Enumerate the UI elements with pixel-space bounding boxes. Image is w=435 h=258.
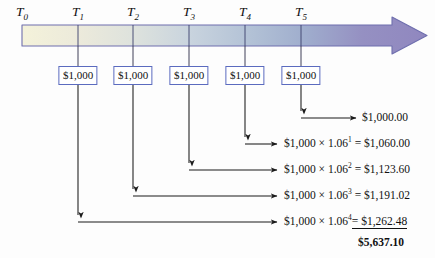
equals-sign-2: = [355, 163, 362, 175]
times-sign-2: × [319, 163, 326, 175]
result-principal-1: $1,000 [284, 137, 316, 149]
result-rate-4: 1.06 [328, 215, 348, 227]
result-principal-2: $1,000 [284, 163, 316, 175]
equals-sign-4: = [352, 215, 359, 227]
times-sign-1: × [319, 137, 326, 149]
result-value-4: $1,262.48 [361, 215, 407, 227]
time-label-t3: T3 [183, 4, 195, 22]
cashflow-box-t4: $1,000 [225, 66, 264, 85]
times-sign-4: × [319, 215, 326, 227]
result-rate-2: 1.06 [328, 163, 348, 175]
times-sign-3: × [319, 189, 326, 201]
result-exponent-2: 2 [348, 161, 352, 170]
cashflow-box-t1: $1,000 [58, 66, 97, 85]
result-row-0: $1,000.00 [362, 112, 408, 124]
tick-drop-lines [78, 46, 301, 66]
cashflow-box-t3: $1,000 [169, 66, 208, 85]
result-row-2: $1,000 × 1.062 = $1,123.60 [284, 164, 410, 176]
result-exponent-3: 3 [348, 187, 352, 196]
result-row-4: $1,000 × 1.064= $1,262.48 [284, 216, 407, 228]
result-value-0: $1,000.00 [362, 111, 408, 123]
cashflow-box-t2: $1,000 [113, 66, 152, 85]
equals-sign-3: = [355, 189, 362, 201]
time-label-t0: T0 [16, 4, 28, 22]
result-row-3: $1,000 × 1.063 = $1,191.02 [284, 190, 410, 202]
result-principal-4: $1,000 [284, 215, 316, 227]
cashflow-box-t5: $1,000 [281, 66, 320, 85]
time-label-t2: T2 [127, 4, 139, 22]
total-value: $5,637.10 [358, 237, 404, 249]
time-label-t1: T1 [72, 4, 84, 22]
result-rate-1: 1.06 [328, 137, 348, 149]
result-value-3: $1,191.02 [364, 189, 410, 201]
time-arrow [22, 17, 427, 54]
time-label-t4: T4 [239, 4, 251, 22]
result-row-1: $1,000 × 1.061 = $1,060.00 [284, 138, 410, 150]
result-principal-3: $1,000 [284, 189, 316, 201]
figure-canvas: T0 T1 T2 T3 T4 T5 $1,000 $1,000 $1,000 $… [0, 0, 435, 258]
result-exponent-1: 1 [348, 135, 352, 144]
result-value-2: $1,123.60 [364, 163, 410, 175]
time-label-t5: T5 [295, 4, 307, 22]
equals-sign-1: = [355, 137, 362, 149]
result-rate-3: 1.06 [328, 189, 348, 201]
result-value-1: $1,060.00 [364, 137, 410, 149]
